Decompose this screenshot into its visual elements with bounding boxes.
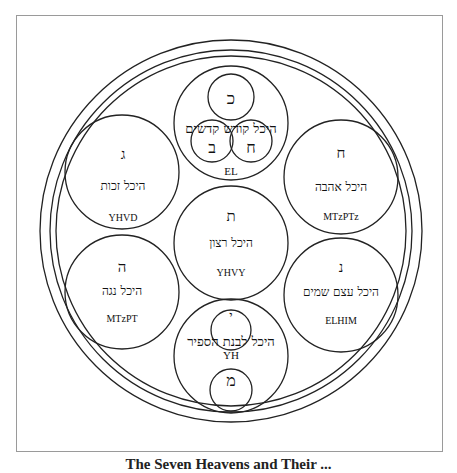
heaven-lower-right-title: היכל עצם שמים: [303, 285, 379, 299]
heaven-lower-left-letter: ה: [118, 258, 127, 276]
heaven-upper-right-name: MTzPTz: [323, 211, 359, 222]
heaven-upper-left-title: היכל זכות: [101, 179, 146, 193]
heaven-top-sub-bet-letter: ב: [208, 138, 216, 157]
heaven-center-name: YHVY: [217, 267, 246, 278]
heaven-top-sub-het-letter: ח: [246, 138, 255, 157]
heaven-top-title: היכל קודש קדשים: [185, 121, 276, 136]
heaven-upper-right-title: היכל אהבה: [315, 180, 367, 194]
heaven-bottom-sub-yod-letter: י: [229, 308, 232, 323]
heaven-upper-right-letter: ח: [337, 144, 346, 162]
heaven-center-letter: ת: [226, 207, 235, 225]
heaven-bottom-title: היכל לבנת הספיר: [187, 334, 275, 349]
heaven-center-title: היכל רצון: [209, 236, 253, 250]
heaven-top-letter: כ: [227, 88, 235, 108]
heaven-upper-left-name: YHVD: [109, 212, 138, 223]
heaven-lower-left-name: MTzPT: [106, 313, 137, 324]
heaven-upper-left-letter: ג: [121, 146, 126, 162]
heaven-lower-right-name: ELHIM: [325, 315, 357, 326]
heaven-lower-right-letter: נ: [339, 259, 344, 275]
heaven-bottom-sub-mem-letter: מ: [226, 371, 235, 390]
heaven-bottom-name: YH: [223, 349, 239, 361]
heaven-top-name: EL: [224, 165, 238, 177]
figure-caption: The Seven Heavens and Their ...: [0, 456, 457, 473]
heaven-lower-left-title: היכל נגה: [102, 284, 142, 298]
